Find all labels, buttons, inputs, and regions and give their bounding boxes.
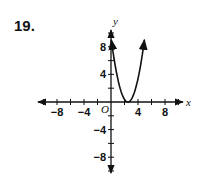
origin-label: O	[101, 103, 109, 115]
x-tick-label: −8	[51, 106, 64, 118]
y-axis-label: y	[112, 15, 118, 27]
y-tick-label: −8	[93, 151, 106, 163]
y-tick-label: 4	[100, 68, 107, 80]
y-tick-label: 8	[100, 41, 106, 53]
parabola-curve	[111, 40, 144, 102]
x-tick-label: −4	[78, 106, 91, 118]
coordinate-plane: −8−448 84−4−8 x y O	[0, 0, 208, 185]
x-tick-label: 4	[135, 106, 142, 118]
x-axis-label: x	[185, 96, 191, 108]
y-tick-label: −4	[93, 124, 106, 136]
x-tick-label: 8	[162, 106, 168, 118]
